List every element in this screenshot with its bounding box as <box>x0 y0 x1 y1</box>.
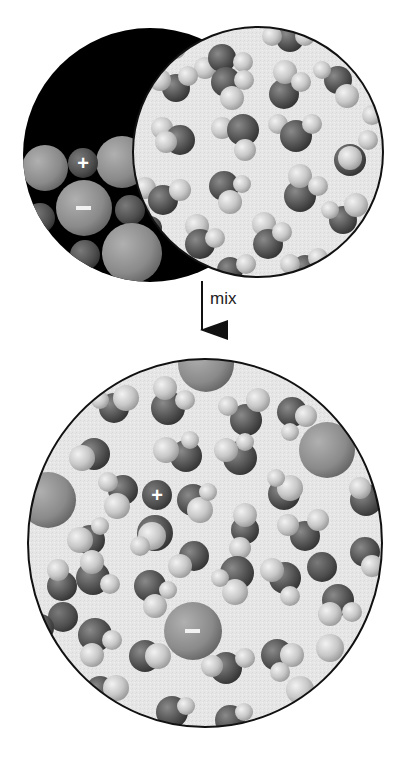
solution-view: + <box>20 336 383 751</box>
water-molecule <box>316 634 344 662</box>
dissolution-diagram: + <box>0 0 401 757</box>
water-molecule <box>26 614 54 642</box>
cation-symbol: + <box>151 484 163 506</box>
cation-sphere <box>307 552 337 582</box>
anion-symbol <box>76 206 91 210</box>
anion-sphere <box>20 472 76 528</box>
anion-sphere <box>322 699 374 751</box>
anion-sphere <box>299 422 355 478</box>
diagram-canvas: + <box>0 0 401 757</box>
cation-symbol: + <box>77 152 89 174</box>
anion-symbol <box>185 629 200 633</box>
mix-label: mix <box>210 289 236 309</box>
water-molecule <box>286 676 314 704</box>
anion-sphere <box>178 336 234 392</box>
